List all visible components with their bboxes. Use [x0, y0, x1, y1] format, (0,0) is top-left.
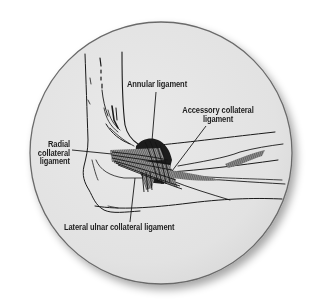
label-lateral-ulnar-line-1: Lateral ulnar collateral ligament	[64, 224, 174, 233]
elbow-ligament-diagram: Annular ligament Accessory collateral li…	[0, 0, 319, 302]
label-accessory-collateral-ligament: Accessory collateral ligament	[179, 107, 256, 124]
label-lateral-ulnar-collateral-ligament: Lateral ulnar collateral ligament	[64, 224, 174, 233]
label-accessory-line-2: ligament	[179, 116, 256, 125]
label-annular-ligament: Annular ligament	[127, 81, 187, 90]
label-annular-line-1: Annular ligament	[127, 81, 187, 90]
label-radial-collateral-ligament: Radial collateral ligament	[31, 141, 70, 167]
label-radial-line-3: ligament	[31, 158, 70, 167]
